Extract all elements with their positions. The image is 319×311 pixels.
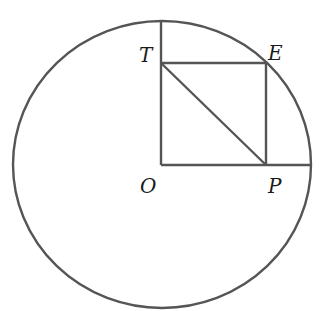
- geometry-diagram: T E O P: [0, 0, 319, 311]
- label-p: P: [267, 174, 282, 198]
- label-t: T: [139, 43, 154, 67]
- label-e: E: [267, 41, 283, 65]
- label-o: O: [140, 174, 156, 198]
- segment-tp: [161, 63, 266, 165]
